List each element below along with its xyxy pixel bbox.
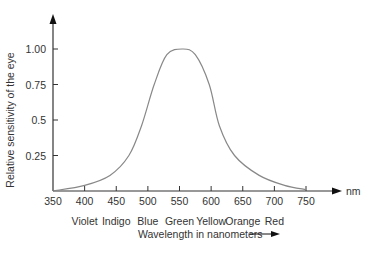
x-tick-label: 350 [44,195,62,207]
y-axis-title: Relative sensitivity of the eye [4,52,16,188]
y-axis-arrow-icon [50,14,57,24]
color-band-label: Indigo [102,215,131,227]
x-tick-label: 700 [266,195,284,207]
y-tick-label: 1.00 [26,43,47,55]
x-unit-label: nm [346,185,361,197]
color-band-label: Blue [137,215,158,227]
color-band-label: Orange [225,215,260,227]
x-tick-label: 450 [107,195,125,207]
sensitivity-curve [53,49,306,191]
x-tick-label: 550 [171,195,189,207]
color-band-label: Red [265,215,284,227]
x-axis-title: Wavelength in nanometers [138,228,263,240]
color-band-label: Violet [72,215,98,227]
color-band-label: Yellow [196,215,226,227]
x-tick-label: 400 [76,195,94,207]
y-tick-label: 0.75 [26,79,47,91]
sensitivity-chart: nm 350400450500550600650700750 0.250.50.… [0,0,373,255]
y-tick-label: 0.5 [31,114,46,126]
color-band-label: Green [165,215,194,227]
x-ticks: 350400450500550600650700750 [44,186,315,207]
x-tick-label: 650 [234,195,252,207]
x-tick-label: 600 [202,195,220,207]
x-tick-label: 500 [139,195,157,207]
y-tick-label: 0.25 [26,150,47,162]
color-band-labels: VioletIndigoBlueGreenYellowOrangeRed [72,215,285,227]
x-tick-label: 750 [297,195,315,207]
x-axis-arrow-icon [332,188,342,195]
x-title-arrow-icon [271,231,280,237]
